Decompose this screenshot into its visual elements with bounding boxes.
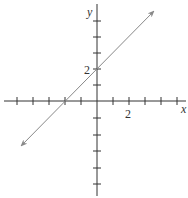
y-tick-label-2: 2 <box>84 63 90 77</box>
coordinate-plane: y x 2 2 <box>0 0 188 198</box>
x-tick-label-2: 2 <box>125 107 131 121</box>
y-axis-label: y <box>86 5 93 19</box>
plotted-line <box>21 11 154 146</box>
x-axis-label: x <box>180 102 187 116</box>
